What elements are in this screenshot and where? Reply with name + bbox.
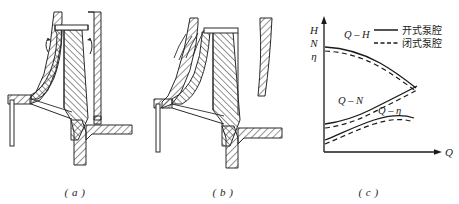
curve-qeta-dashed <box>325 120 414 144</box>
panel-b-drawing <box>148 0 298 180</box>
panel-c-caption: ( c ) <box>296 186 459 198</box>
chart-legend: 开式泵腔 闭式泵腔 <box>374 24 442 49</box>
legend-label-closed: 闭式泵腔 <box>402 37 442 49</box>
annotation-qeta: Q – η <box>378 105 401 116</box>
panel-c-performance-chart: H N η Q <box>296 0 459 204</box>
x-axis-label: Q <box>445 146 453 158</box>
panel-a-open-cavity: ( a ) <box>0 0 150 204</box>
curve-qh-solid <box>325 47 416 88</box>
casing-right-wall <box>88 12 101 120</box>
performance-chart-svg: H N η Q <box>296 0 459 180</box>
annotation-qh: Q – H <box>344 29 371 40</box>
impeller-top-cap <box>55 25 88 30</box>
shaft-casing <box>71 120 86 165</box>
legend-entry-closed: 闭式泵腔 <box>374 37 442 49</box>
panel-b-caption: ( b ) <box>148 186 298 198</box>
inlet-pipe-wall <box>156 104 160 152</box>
casing-right-wall <box>258 18 272 96</box>
engineering-figure: ( a ) <box>0 0 459 204</box>
legend-label-open: 开式泵腔 <box>402 24 442 36</box>
legend-entry-open: 开式泵腔 <box>374 24 442 36</box>
panel-a-drawing <box>0 0 150 180</box>
flow-arrow-right <box>87 38 92 54</box>
y-axis-label-h: H <box>309 24 319 36</box>
annotation-qn: Q – N <box>338 95 364 106</box>
curve-qh-dashed <box>325 51 416 91</box>
y-axis-label-eta: η <box>311 50 316 62</box>
y-axis-arrow <box>321 16 327 24</box>
shaft-casing <box>222 126 238 168</box>
discharge-duct-wall <box>238 128 282 144</box>
discharge-duct-wall <box>86 116 132 140</box>
impeller-top-cap <box>204 28 238 33</box>
panel-a-caption: ( a ) <box>0 186 150 198</box>
inlet-pipe-wall <box>10 100 14 146</box>
y-axis-label-n: N <box>309 37 318 49</box>
y-axis-label-group: H N η <box>309 24 319 62</box>
x-axis-arrow <box>434 149 442 155</box>
panel-b-closed-cavity: ( b ) <box>148 0 298 204</box>
